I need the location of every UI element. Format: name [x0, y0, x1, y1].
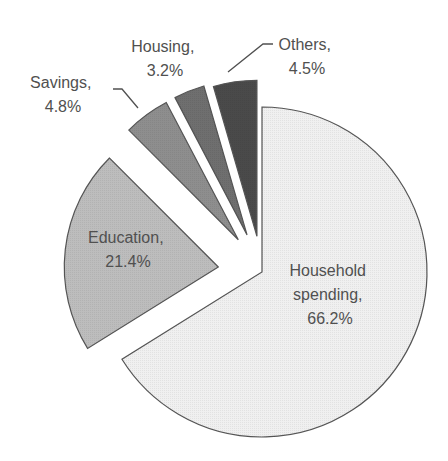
savings-leader-line: [113, 89, 138, 108]
housing-label: Housing, 3.2%: [131, 38, 199, 79]
others-leader-line: [228, 44, 273, 72]
others-label: Others, 4.5%: [279, 36, 336, 77]
savings-label: Savings, 4.8%: [30, 74, 96, 115]
pie-chart: Household spending, 66.2% Education, 21.…: [0, 0, 448, 461]
